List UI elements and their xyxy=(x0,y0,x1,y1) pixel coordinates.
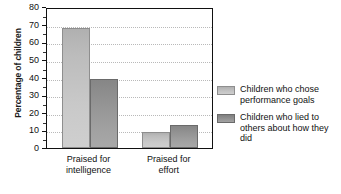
legend-item: Children who chose performance goals xyxy=(217,84,341,105)
legend-label: Children who chose performance goals xyxy=(240,84,340,105)
y-axis-tick-label: 70 xyxy=(29,21,39,30)
y-axis-tick-label: 50 xyxy=(29,56,39,65)
bar xyxy=(142,132,170,148)
bar xyxy=(62,28,90,148)
y-axis-tick-label: 60 xyxy=(29,38,39,47)
y-axis-tick-label: 40 xyxy=(29,74,39,83)
y-axis-tick-label: 80 xyxy=(29,3,39,12)
y-axis-tick-label: 20 xyxy=(29,109,39,118)
y-axis-tick-label: 30 xyxy=(29,91,39,100)
y-axis-tick-label: 10 xyxy=(29,126,39,135)
bar xyxy=(90,79,118,148)
x-axis-category-label-line: Praised for xyxy=(119,154,219,165)
bar xyxy=(170,125,198,148)
y-axis-tick-label: 0 xyxy=(34,144,39,153)
x-axis-category-label-line: effort xyxy=(119,165,219,176)
bar-chart-figure: Percentage of children 01020304050607080… xyxy=(0,0,341,194)
legend-item: Children who lied to others about how th… xyxy=(217,112,341,144)
legend-label: Children who lied to others about how th… xyxy=(240,112,340,144)
legend-swatch xyxy=(217,86,235,95)
y-axis-ticks: 01020304050607080 xyxy=(0,8,46,149)
x-axis-category-label: Praised foreffort xyxy=(119,154,219,176)
plot-area xyxy=(46,8,213,149)
chart-legend: Children who chose performance goalsChil… xyxy=(217,84,341,151)
legend-swatch xyxy=(217,114,235,123)
